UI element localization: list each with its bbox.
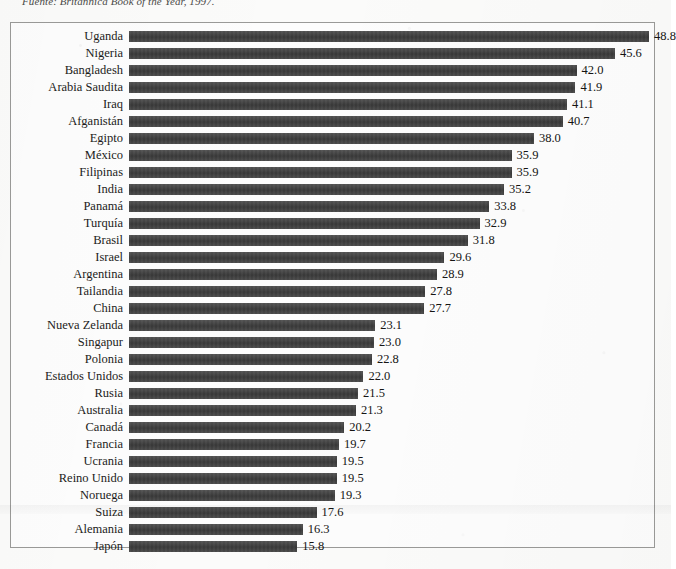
bar-track: 15.8 xyxy=(129,541,650,553)
bar-row: Egipto38.0 xyxy=(11,132,654,149)
bar-track: 21.5 xyxy=(129,388,650,400)
bar-row: Afganistán40.7 xyxy=(11,115,654,132)
bar xyxy=(129,235,468,246)
bar-row: Francia19.7 xyxy=(11,438,654,455)
bar xyxy=(129,422,344,433)
bar-value-label: 32.9 xyxy=(485,217,507,230)
bar-value-label: 20.2 xyxy=(349,421,371,434)
bar xyxy=(129,116,563,127)
bar xyxy=(129,439,339,450)
bar-value-label: 22.0 xyxy=(368,370,390,383)
bar-track: 35.9 xyxy=(129,150,650,162)
category-label: Estados Unidos xyxy=(11,370,123,383)
bar-row: Tailandia27.8 xyxy=(11,285,654,302)
bar-row: Singapur23.0 xyxy=(11,336,654,353)
bar-row: Alemania16.3 xyxy=(11,523,654,540)
bar-track: 19.7 xyxy=(129,439,650,451)
category-label: Egipto xyxy=(11,132,123,145)
category-label: Rusia xyxy=(11,387,123,400)
bar xyxy=(129,167,512,178)
bar-track: 27.7 xyxy=(129,303,650,315)
category-label: Reino Unido xyxy=(11,472,123,485)
bar xyxy=(129,337,374,348)
bar xyxy=(129,541,297,552)
bar-row: Bangladesh42.0 xyxy=(11,64,654,81)
bar-track: 19.5 xyxy=(129,456,650,468)
bar xyxy=(129,473,337,484)
bar-row: México35.9 xyxy=(11,149,654,166)
bar-row: Brasil31.8 xyxy=(11,234,654,251)
bar-row: India35.2 xyxy=(11,183,654,200)
bar xyxy=(129,65,577,76)
bar-row: Argentina28.9 xyxy=(11,268,654,285)
category-label: Singapur xyxy=(11,336,123,349)
bar-track: 33.8 xyxy=(129,201,650,213)
bar-value-label: 21.5 xyxy=(363,387,385,400)
category-label: Afganistán xyxy=(11,115,123,128)
bar-value-label: 22.8 xyxy=(377,353,399,366)
category-label: Canadá xyxy=(11,421,123,434)
bar-value-label: 35.2 xyxy=(509,183,531,196)
category-label: Noruega xyxy=(11,489,123,502)
category-label: Arabia Saudita xyxy=(11,81,123,94)
category-label: Francia xyxy=(11,438,123,451)
bar-track: 38.0 xyxy=(129,133,650,145)
bar-value-label: 42.0 xyxy=(582,64,604,77)
bar xyxy=(129,48,615,59)
bar-value-label: 35.9 xyxy=(517,166,539,179)
category-label: Brasil xyxy=(11,234,123,247)
bar-track: 45.6 xyxy=(129,48,650,60)
bar xyxy=(129,99,567,110)
bar xyxy=(129,201,489,212)
bar-track: 23.0 xyxy=(129,337,650,349)
bar xyxy=(129,405,356,416)
bar-track: 40.7 xyxy=(129,116,650,128)
bar-track: 23.1 xyxy=(129,320,650,332)
bar-row: Reino Unido19.5 xyxy=(11,472,654,489)
bar-value-label: 23.1 xyxy=(380,319,402,332)
bar xyxy=(129,354,372,365)
bar-value-label: 23.0 xyxy=(379,336,401,349)
category-label: Nueva Zelanda xyxy=(11,319,123,332)
bar-row: Japón15.8 xyxy=(11,540,654,557)
bar-value-label: 31.8 xyxy=(473,234,495,247)
bar-track: 20.2 xyxy=(129,422,650,434)
bar-track: 21.3 xyxy=(129,405,650,417)
bar-track: 29.6 xyxy=(129,252,650,264)
bar-row: Ucrania19.5 xyxy=(11,455,654,472)
bar-track: 42.0 xyxy=(129,65,650,77)
bar-row: Israel29.6 xyxy=(11,251,654,268)
bar-value-label: 48.8 xyxy=(654,30,676,43)
chart-frame: Uganda48.8Nigeria45.6Bangladesh42.0Arabi… xyxy=(10,22,655,548)
bar-value-label: 35.9 xyxy=(517,149,539,162)
bar xyxy=(129,252,444,263)
bar-row: China27.7 xyxy=(11,302,654,319)
bar-row: Noruega19.3 xyxy=(11,489,654,506)
bar-track: 19.5 xyxy=(129,473,650,485)
bar-value-label: 40.7 xyxy=(568,115,590,128)
category-label: India xyxy=(11,183,123,196)
category-label: Polonia xyxy=(11,353,123,366)
bar-value-label: 16.3 xyxy=(308,523,330,536)
bar-row: Filipinas35.9 xyxy=(11,166,654,183)
bar-row: Estados Unidos22.0 xyxy=(11,370,654,387)
category-label: Turquía xyxy=(11,217,123,230)
bar-value-label: 41.9 xyxy=(580,81,602,94)
bar-row: Uganda48.8 xyxy=(11,30,654,47)
bar-track: 31.8 xyxy=(129,235,650,247)
bar-row: Panamá33.8 xyxy=(11,200,654,217)
bar-value-label: 27.7 xyxy=(429,302,451,315)
bar-value-label: 38.0 xyxy=(539,132,561,145)
category-label: Nigeria xyxy=(11,47,123,60)
category-label: Uganda xyxy=(11,30,123,43)
bar xyxy=(129,320,375,331)
bar-row: Australia21.3 xyxy=(11,404,654,421)
category-label: Argentina xyxy=(11,268,123,281)
bar-value-label: 17.6 xyxy=(322,506,344,519)
bar xyxy=(129,524,303,535)
bar xyxy=(129,303,424,314)
bar-value-label: 33.8 xyxy=(494,200,516,213)
bar-track: 22.0 xyxy=(129,371,650,383)
bar xyxy=(129,218,480,229)
bar-row: Nueva Zelanda23.1 xyxy=(11,319,654,336)
